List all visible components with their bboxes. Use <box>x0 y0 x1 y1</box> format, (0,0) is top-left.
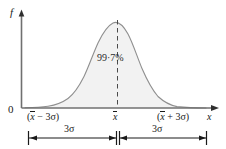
left-span-arrowhead-start <box>30 135 37 140</box>
left-span-arrowhead-end <box>109 135 116 140</box>
x-tick-label-left: (x − 3σ) <box>27 112 59 122</box>
x-axis-label: x <box>207 112 211 122</box>
x-axis-arrowhead <box>211 105 219 111</box>
right-span-arrowhead-start <box>120 135 127 140</box>
right-bound-mean-var: x <box>160 112 164 122</box>
mean-var: x <box>113 112 117 122</box>
y-axis-arrowhead <box>19 10 25 17</box>
normal-curve-area <box>25 22 206 108</box>
area-percent-annotation: 99·7% <box>97 53 124 63</box>
right-bound-offset: + 3σ) <box>165 111 189 122</box>
left-span-label: 3σ <box>64 124 74 134</box>
origin-label: 0 <box>8 104 14 115</box>
x-tick-label-right: (x + 3σ) <box>157 112 189 122</box>
left-bound-offset: − 3σ) <box>35 111 59 122</box>
right-span-arrowhead-end <box>199 135 206 140</box>
y-axis-label: f <box>10 7 13 18</box>
left-bound-mean-var: x <box>30 112 34 122</box>
right-span-label: 3σ <box>152 124 162 134</box>
normal-distribution-figure: f 0 (x − 3σ) x (x + 3σ) x 99·7% 3σ 3σ <box>0 0 226 149</box>
figure-canvas <box>0 0 226 149</box>
x-tick-label-mean: x <box>113 112 117 122</box>
